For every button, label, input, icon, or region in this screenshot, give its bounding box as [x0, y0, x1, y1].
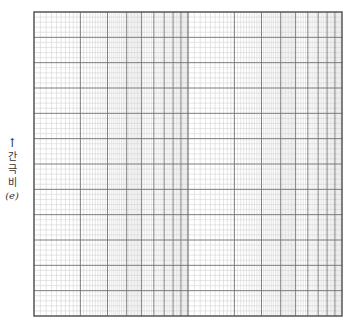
semilog-grid [0, 0, 352, 330]
up-arrow-icon: ↑ [4, 136, 20, 150]
major-gridlines [34, 12, 342, 316]
ylabel-char-3: 비 [4, 176, 20, 189]
ylabel-char-2: 극 [4, 163, 20, 176]
ylabel-char-1: 간 [4, 150, 20, 163]
ylabel-symbol: (e) [4, 189, 20, 202]
y-axis-label: ↑ 간 극 비 (e) [4, 136, 20, 202]
